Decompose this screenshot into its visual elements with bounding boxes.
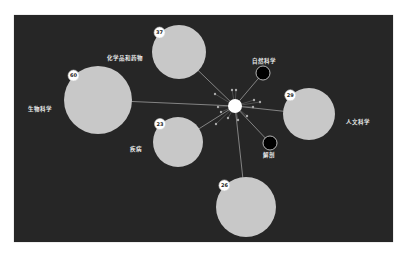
count-badge-text: 26	[221, 182, 228, 188]
satellite-node[interactable]	[217, 106, 219, 108]
satellite-node[interactable]	[227, 117, 229, 119]
satellite-node[interactable]	[246, 115, 248, 117]
node-label-disease: 疾病	[130, 145, 142, 153]
count-badge-text: 60	[70, 72, 77, 78]
edge-anatomy	[235, 106, 270, 143]
satellite-node[interactable]	[259, 101, 261, 103]
nodes	[64, 25, 335, 237]
node-label-natsci: 自然科学	[252, 57, 276, 65]
dark-node-natsci[interactable]	[256, 66, 270, 80]
satellite-node[interactable]	[214, 93, 216, 95]
dark-node-anatomy[interactable]	[263, 136, 277, 150]
satellite-node[interactable]	[252, 106, 254, 108]
edges	[98, 52, 309, 207]
node-label-chem: 化学品和药物	[107, 54, 143, 62]
satellite-node[interactable]	[253, 99, 255, 101]
satellite-node[interactable]	[231, 89, 233, 91]
center-node[interactable]	[228, 99, 242, 113]
node-label-human: 人文科学	[346, 118, 370, 126]
node-label-bio: 生物科学	[28, 105, 52, 113]
satellite-node[interactable]	[235, 89, 237, 91]
count-badge-text: 23	[157, 121, 164, 127]
count-badge-text: 37	[156, 29, 163, 35]
satellite-node[interactable]	[220, 111, 222, 113]
network-graph: 37化学品和药物60生物科学29人文科学23疾病26自然科学解剖	[0, 0, 408, 256]
satellite-node[interactable]	[215, 123, 217, 125]
node-label-anatomy: 解剖	[263, 151, 275, 159]
satellite-node[interactable]	[237, 119, 239, 121]
count-badge-text: 29	[287, 92, 294, 98]
